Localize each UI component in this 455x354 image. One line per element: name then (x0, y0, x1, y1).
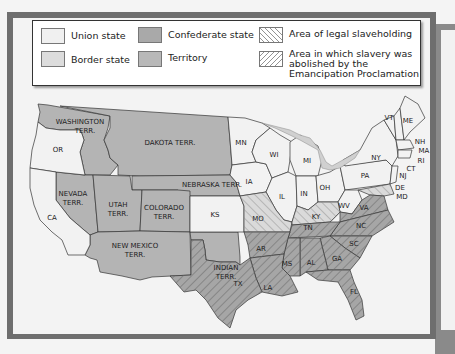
legend-label: Border state (71, 54, 130, 65)
label-il: IL (279, 193, 285, 201)
label-in: IN (300, 190, 307, 198)
label-ri: RI (418, 157, 425, 165)
label-ar: AR (256, 245, 266, 253)
legend-item-union: Union state (41, 28, 126, 44)
legend: Union state Border state Confederate sta… (32, 20, 421, 86)
label-ct: CT (406, 165, 416, 173)
label-nj: NJ (399, 172, 406, 180)
legend-label: Area of legal slaveholding (289, 28, 412, 39)
legend-label: Area in which slavery was abolished by t… (289, 49, 419, 79)
legend-item-confederate: Confederate state (138, 27, 254, 43)
us-map: WASHINGTON TERR. OR DAKOTA TERR. MN WI M… (13, 86, 433, 336)
label-dakota-terr: DAKOTA TERR. (145, 139, 196, 147)
state-ct-ri (398, 150, 412, 158)
label-utah-terr-2: TERR. (107, 210, 128, 218)
label-ma: MA (419, 147, 430, 155)
legend-item-territory: Territory (138, 51, 207, 67)
label-vt: VT (384, 114, 394, 122)
territory-swatch (138, 51, 162, 67)
slash-hatch-swatch (259, 51, 283, 67)
label-ky: KY (312, 213, 321, 221)
backslash-hatch-swatch (259, 27, 283, 43)
back-page-inner (441, 30, 455, 330)
legend-line: Emancipation Proclamation (289, 69, 419, 79)
label-new-mexico-terr-2: TERR. (124, 251, 145, 259)
label-ny: NY (371, 154, 381, 162)
label-indian-terr-2: TERR. (215, 273, 236, 281)
label-wv: WV (338, 202, 350, 210)
legend-item-border: Border state (41, 51, 130, 67)
legend-item-emancipation: Area in which slavery was abolished by t… (259, 51, 419, 79)
label-washington-terr-2: TERR. (74, 127, 95, 135)
label-ks: KS (210, 211, 220, 219)
label-nh: NH (415, 138, 426, 146)
label-de: DE (395, 184, 405, 192)
label-va: VA (359, 204, 368, 212)
label-nevada-terr-2: TERR. (62, 199, 83, 207)
label-al: AL (307, 259, 316, 267)
label-sc: SC (349, 240, 358, 248)
union-swatch (41, 28, 65, 44)
label-nc: NC (356, 222, 366, 230)
label-md: MD (396, 193, 407, 201)
label-tx: TX (232, 280, 242, 288)
legend-label: Confederate state (168, 29, 254, 40)
label-wi: WI (270, 151, 279, 159)
label-la: LA (264, 284, 273, 292)
label-oh: OH (320, 184, 331, 192)
label-or: OR (53, 146, 64, 154)
label-fl: FL (350, 288, 358, 296)
label-ms: MS (282, 260, 293, 268)
state-ma (396, 140, 414, 150)
label-ca: CA (47, 214, 57, 222)
label-mn: MN (235, 139, 246, 147)
label-new-mexico-terr: NEW MEXICO (112, 242, 159, 250)
legend-item-slaveholding: Area of legal slaveholding (259, 27, 412, 43)
label-utah-terr: UTAH (109, 201, 128, 209)
label-tn: TN (302, 224, 313, 232)
border-swatch (41, 51, 65, 67)
label-ga: GA (332, 255, 342, 263)
label-ia: IA (246, 178, 253, 186)
label-me: ME (403, 117, 413, 125)
legend-label: Territory (168, 52, 207, 63)
label-pa: PA (361, 172, 370, 180)
label-nevada-terr: NEVADA (59, 190, 88, 198)
label-mi: MI (303, 157, 311, 165)
label-colorado-terr-2: TERR. (153, 213, 174, 221)
label-indian-terr: INDIAN (214, 264, 239, 272)
legend-label: Union state (71, 30, 126, 41)
label-colorado-terr: COLORADO (144, 204, 184, 212)
label-nebraska-terr: NEBRASKA TERR. (182, 181, 242, 189)
confederate-swatch (138, 27, 162, 43)
label-mo: MO (252, 215, 264, 223)
label-washington-terr: WASHINGTON (56, 118, 105, 126)
